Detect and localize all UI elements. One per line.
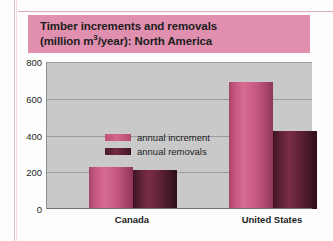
bar-canada-annual-removals [133, 170, 177, 210]
legend-swatch-increment-icon [105, 134, 131, 141]
legend-swatch-removals-icon [105, 148, 131, 155]
y-tick-label-400: 400 [2, 130, 46, 141]
y-axis-tick-labels: 0200400600800 [0, 62, 46, 209]
chart-title-band: Timber increments and removals (million … [28, 15, 310, 53]
x-axis-line [47, 208, 312, 209]
bar-united-states-annual-increment [229, 82, 273, 209]
page-rule-horizontal [18, 11, 333, 12]
x-axis-category-labels: CanadaUnited States [46, 214, 311, 230]
y-tick-label-200: 200 [2, 167, 46, 178]
legend-label-increment: annual increment [137, 132, 210, 143]
bar-united-states-annual-removals [273, 131, 317, 209]
chart-title: Timber increments and removals (million … [40, 19, 217, 49]
legend-item-annual-removals: annual removals [105, 145, 235, 157]
chart-title-line-2: (million m3/year): North America [40, 34, 217, 49]
legend-label-removals: annual removals [137, 146, 207, 157]
chart-title-line-2-post: /year): North America [98, 35, 212, 47]
chart-title-line-1: Timber increments and removals [40, 19, 217, 34]
x-label-canada: Canada [115, 214, 149, 225]
chart-figure: Timber increments and removals (million … [0, 0, 333, 241]
plot-area: annual increment annual removals [46, 62, 312, 209]
legend-item-annual-increment: annual increment [105, 131, 235, 143]
x-label-united-states: United States [242, 214, 303, 225]
bar-canada-annual-increment [89, 167, 133, 209]
gridline-800 [47, 62, 312, 63]
y-tick-label-600: 600 [2, 93, 46, 104]
chart-title-line-2-pre: (million m [40, 35, 93, 47]
y-tick-label-0: 0 [2, 204, 46, 215]
y-tick-label-800: 800 [2, 57, 46, 68]
chart-legend: annual increment annual removals [105, 131, 235, 159]
